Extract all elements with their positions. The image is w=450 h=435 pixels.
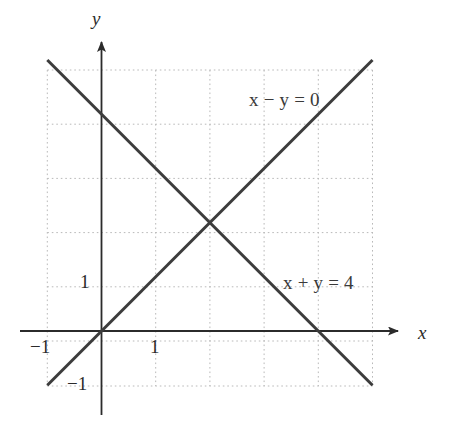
- y-tick-label-1: 1: [80, 271, 90, 293]
- eq2-text: x + y = 4: [283, 272, 354, 293]
- x-axis-label: x: [418, 322, 426, 344]
- y-tick-label-neg1: −1: [67, 373, 87, 395]
- graph-figure: x − y = 0 x + y = 4 x y −1 1 1 −1: [0, 0, 450, 435]
- eq1-text: x − y = 0: [249, 89, 320, 110]
- equation-label-line1: x − y = 0: [249, 89, 320, 111]
- grid-lines: [47, 70, 372, 386]
- equation-label-line2: x + y = 4: [283, 272, 354, 294]
- x-tick-label-1: 1: [150, 336, 160, 358]
- y-axis-label: y: [92, 8, 100, 30]
- coordinate-plot: [0, 0, 450, 435]
- x-tick-label-neg1: −1: [30, 336, 50, 358]
